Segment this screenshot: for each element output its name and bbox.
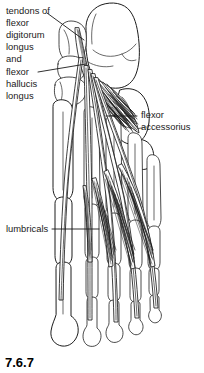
label-line: digitorum (6, 29, 45, 40)
label-line: flexor (6, 17, 29, 28)
label-line: longus (6, 90, 34, 101)
label-line: tendons of (6, 5, 50, 16)
label-line: flexor (141, 109, 164, 120)
label-line: lumbricals (6, 223, 49, 234)
figure-caption: 7.6.7 (5, 355, 34, 370)
label-lumbricals: lumbricals (6, 223, 49, 234)
label-line: hallucis (6, 78, 38, 89)
label-line: accessorius (141, 121, 191, 132)
label-line: longus (6, 41, 34, 52)
label-line: and (6, 53, 22, 64)
anatomical-figure: tendons of flexor digitorum longus and f… (0, 0, 204, 373)
label-line: flexor (6, 66, 29, 77)
